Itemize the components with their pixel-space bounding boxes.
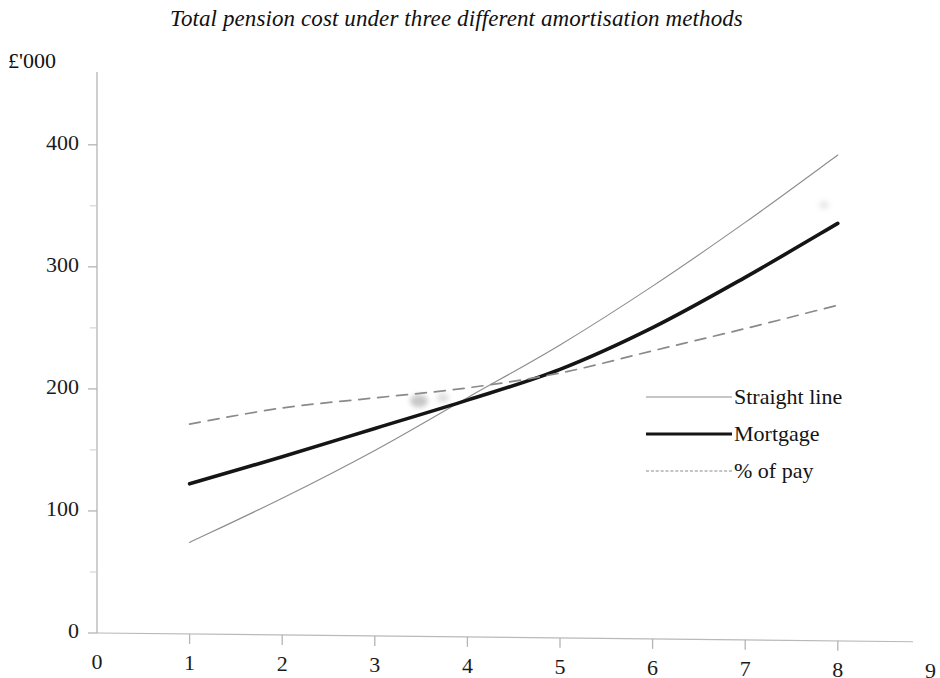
x-tick-label: 4 bbox=[447, 653, 487, 678]
chart-legend: Straight line Mortgage % of pay bbox=[646, 378, 906, 489]
legend-label: Mortgage bbox=[732, 421, 820, 447]
x-tick-label: 5 bbox=[540, 654, 580, 678]
x-tick-label: 6 bbox=[633, 655, 673, 678]
legend-item-straight-line: Straight line bbox=[646, 378, 906, 415]
legend-swatch-dashed-icon bbox=[646, 462, 732, 480]
x-tick-label: 1 bbox=[170, 650, 210, 676]
legend-item-percent-of-pay: % of pay bbox=[646, 452, 906, 489]
scan-artifacts bbox=[410, 201, 829, 408]
y-tick-label: 400 bbox=[9, 130, 79, 156]
legend-label: % of pay bbox=[732, 458, 813, 484]
legend-swatch-line-icon bbox=[646, 425, 732, 443]
y-tick-label: 0 bbox=[9, 618, 79, 644]
legend-swatch-line-icon bbox=[646, 388, 732, 406]
axes bbox=[88, 72, 913, 652]
x-tick-label: 0 bbox=[77, 649, 117, 675]
x-tick-label: 8 bbox=[818, 657, 858, 678]
x-tick-label: 7 bbox=[725, 656, 765, 678]
x-tick-label: 2 bbox=[262, 651, 302, 677]
legend-label: Straight line bbox=[732, 384, 842, 410]
x-tick-label: 3 bbox=[355, 652, 395, 678]
legend-item-mortgage: Mortgage bbox=[646, 415, 906, 452]
x-tick-label: 9 bbox=[910, 658, 940, 678]
y-tick-label: 300 bbox=[9, 252, 79, 278]
y-tick-label: 100 bbox=[9, 496, 79, 522]
y-tick-label: 200 bbox=[9, 374, 79, 400]
